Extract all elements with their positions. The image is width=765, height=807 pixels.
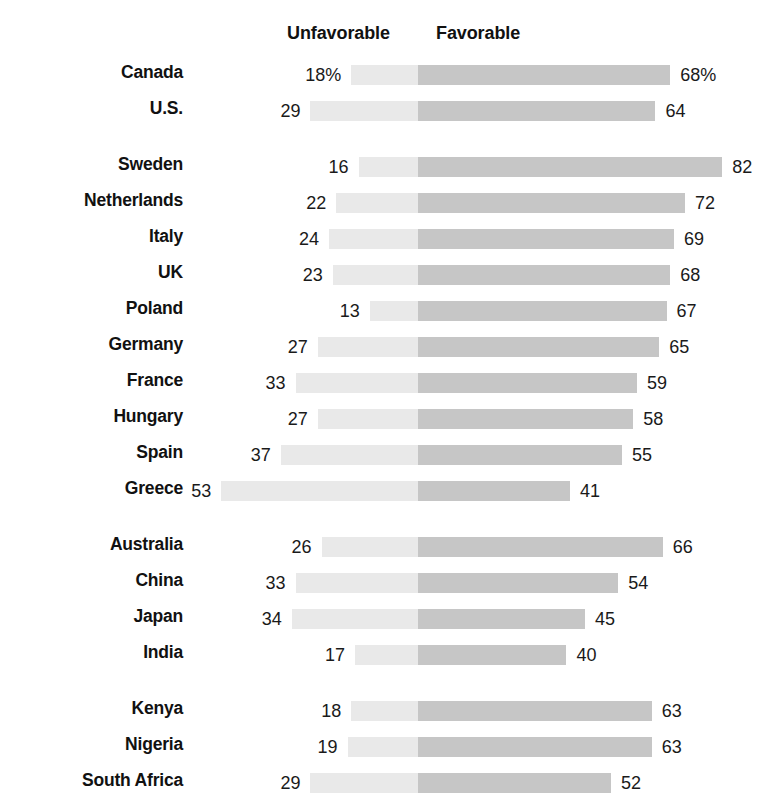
diverging-bar-chart: Unfavorable Favorable Canada18%68%U.S.29… xyxy=(0,0,765,807)
bar-favorable xyxy=(418,229,674,249)
bar-unfavorable xyxy=(351,701,418,721)
value-label-favorable: 59 xyxy=(647,373,667,393)
bar-unfavorable xyxy=(318,409,418,429)
bar-track: 18%68% xyxy=(0,57,765,93)
value-label-favorable: 66 xyxy=(673,537,693,557)
bar-favorable xyxy=(418,265,670,285)
value-label-favorable: 54 xyxy=(628,573,648,593)
chart-row: UK2368 xyxy=(0,257,765,293)
chart-row: India1740 xyxy=(0,637,765,673)
bar-unfavorable xyxy=(318,337,418,357)
bar-unfavorable xyxy=(281,445,418,465)
bar-track: 2964 xyxy=(0,93,765,129)
chart-row: Nigeria1963 xyxy=(0,729,765,765)
bar-track: 3755 xyxy=(0,437,765,473)
value-label-favorable: 63 xyxy=(662,737,682,757)
value-label-favorable: 68 xyxy=(680,265,700,285)
chart-legend: Unfavorable Favorable xyxy=(0,23,765,49)
bar-favorable xyxy=(418,773,611,793)
value-label-favorable: 55 xyxy=(632,445,652,465)
chart-row: Italy2469 xyxy=(0,221,765,257)
value-label-unfavorable: 27 xyxy=(288,409,308,429)
bar-unfavorable xyxy=(348,737,418,757)
bar-unfavorable xyxy=(351,65,418,85)
value-label-favorable: 69 xyxy=(684,229,704,249)
value-label-unfavorable: 33 xyxy=(266,573,286,593)
bar-favorable xyxy=(418,157,722,177)
value-label-unfavorable: 16 xyxy=(329,157,349,177)
bar-favorable xyxy=(418,609,585,629)
value-label-favorable: 45 xyxy=(595,609,615,629)
value-label-unfavorable: 53 xyxy=(191,481,211,501)
bar-favorable xyxy=(418,65,670,85)
value-label-favorable: 40 xyxy=(576,645,596,665)
bar-favorable xyxy=(418,537,663,557)
value-label-favorable: 58 xyxy=(643,409,663,429)
bar-favorable xyxy=(418,337,659,357)
bar-favorable xyxy=(418,101,655,121)
bar-track: 3359 xyxy=(0,365,765,401)
value-label-unfavorable: 23 xyxy=(303,265,323,285)
bar-favorable xyxy=(418,301,667,321)
value-label-favorable: 41 xyxy=(580,481,600,501)
value-label-unfavorable: 17 xyxy=(325,645,345,665)
bar-track: 1367 xyxy=(0,293,765,329)
bar-track: 2952 xyxy=(0,765,765,801)
value-label-unfavorable: 13 xyxy=(340,301,360,321)
value-label-unfavorable: 29 xyxy=(280,101,300,121)
chart-rows: Canada18%68%U.S.2964Sweden1682Netherland… xyxy=(0,57,765,801)
chart-row: Australia2666 xyxy=(0,529,765,565)
country-group-north-america: Canada18%68%U.S.2964 xyxy=(0,57,765,129)
chart-row: Greece5341 xyxy=(0,473,765,509)
bar-unfavorable xyxy=(296,573,418,593)
bar-track: 1963 xyxy=(0,729,765,765)
chart-row: Japan3445 xyxy=(0,601,765,637)
bar-track: 2758 xyxy=(0,401,765,437)
bar-track: 3445 xyxy=(0,601,765,637)
chart-row: Netherlands2272 xyxy=(0,185,765,221)
chart-row: Sweden1682 xyxy=(0,149,765,185)
bar-track: 3354 xyxy=(0,565,765,601)
bar-unfavorable xyxy=(370,301,418,321)
bar-favorable xyxy=(418,481,570,501)
legend-label-favorable: Favorable xyxy=(436,23,520,44)
bar-track: 1740 xyxy=(0,637,765,673)
country-group-europe: Sweden1682Netherlands2272Italy2469UK2368… xyxy=(0,149,765,509)
value-label-unfavorable: 18 xyxy=(321,701,341,721)
bar-track: 5341 xyxy=(0,473,765,509)
legend-label-unfavorable: Unfavorable xyxy=(287,23,390,44)
value-label-unfavorable: 18% xyxy=(305,65,341,85)
value-label-unfavorable: 22 xyxy=(306,193,326,213)
country-group-asia-pacific: Australia2666China3354Japan3445India1740 xyxy=(0,529,765,673)
chart-row: China3354 xyxy=(0,565,765,601)
bar-unfavorable xyxy=(333,265,418,285)
value-label-unfavorable: 29 xyxy=(280,773,300,793)
chart-row: Spain3755 xyxy=(0,437,765,473)
bar-track: 2765 xyxy=(0,329,765,365)
bar-track: 2368 xyxy=(0,257,765,293)
value-label-favorable: 63 xyxy=(662,701,682,721)
bar-unfavorable xyxy=(355,645,418,665)
value-label-favorable: 64 xyxy=(665,101,685,121)
bar-favorable xyxy=(418,409,633,429)
bar-unfavorable xyxy=(322,537,418,557)
bar-unfavorable xyxy=(221,481,418,501)
bar-track: 1682 xyxy=(0,149,765,185)
bar-unfavorable xyxy=(310,773,418,793)
country-group-africa: Kenya1863Nigeria1963South Africa2952 xyxy=(0,693,765,801)
value-label-favorable: 72 xyxy=(695,193,715,213)
chart-row: Canada18%68% xyxy=(0,57,765,93)
bar-unfavorable xyxy=(292,609,418,629)
chart-row: France3359 xyxy=(0,365,765,401)
bar-track: 1863 xyxy=(0,693,765,729)
value-label-unfavorable: 19 xyxy=(317,737,337,757)
bar-unfavorable xyxy=(336,193,418,213)
bar-track: 2666 xyxy=(0,529,765,565)
bar-favorable xyxy=(418,193,685,213)
chart-row: South Africa2952 xyxy=(0,765,765,801)
value-label-unfavorable: 33 xyxy=(266,373,286,393)
bar-favorable xyxy=(418,445,622,465)
bar-track: 2272 xyxy=(0,185,765,221)
chart-row: U.S.2964 xyxy=(0,93,765,129)
bar-favorable xyxy=(418,645,566,665)
